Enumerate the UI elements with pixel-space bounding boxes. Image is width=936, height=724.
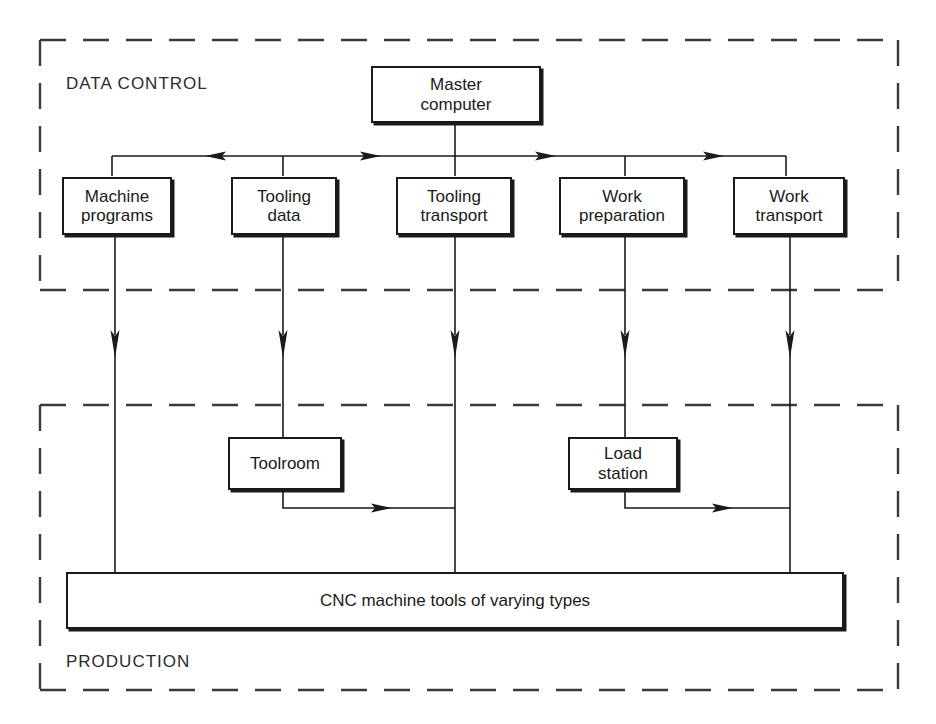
node-work-preparation-line1: Work xyxy=(575,187,669,206)
node-master-computer[interactable]: Master computer xyxy=(371,66,541,123)
node-work-preparation-line2: preparation xyxy=(575,206,669,225)
node-load-station[interactable]: Load station xyxy=(568,437,678,490)
node-toolroom-label: Toolroom xyxy=(246,454,324,473)
zone-label-production: PRODUCTION xyxy=(66,652,190,672)
node-tooling-data[interactable]: Tooling data xyxy=(231,177,337,235)
connector-tooling-data-down xyxy=(279,236,288,438)
node-work-transport[interactable]: Work transport xyxy=(733,177,845,235)
connector-load-station-to-work-transport xyxy=(625,490,790,513)
node-machine-programs-line1: Machine xyxy=(77,187,157,206)
node-toolroom[interactable]: Toolroom xyxy=(228,437,342,490)
node-tooling-transport-line1: Tooling xyxy=(416,187,491,206)
node-master-computer-line2: computer xyxy=(417,95,496,114)
zone-label-data-control: DATA CONTROL xyxy=(66,74,208,94)
connector-toolroom-to-tooling-transport xyxy=(283,490,455,513)
connector-work-preparation-down xyxy=(621,236,630,438)
node-tooling-transport[interactable]: Tooling transport xyxy=(396,177,512,235)
node-machine-programs[interactable]: Machine programs xyxy=(62,177,172,235)
data-bus-line xyxy=(112,156,786,176)
diagram-canvas: DATA CONTROL PRODUCTION Master computer … xyxy=(0,0,936,724)
node-work-transport-line1: Work xyxy=(751,187,826,206)
node-master-computer-line1: Master xyxy=(417,75,496,94)
node-cnc-machine-tools-label: CNC machine tools of varying types xyxy=(320,591,590,611)
node-machine-programs-line2: programs xyxy=(77,206,157,225)
node-tooling-data-line2: data xyxy=(253,206,315,225)
zone-border-production xyxy=(40,405,898,690)
node-load-station-line2: station xyxy=(594,464,652,483)
node-cnc-machine-tools[interactable]: CNC machine tools of varying types xyxy=(66,572,844,629)
node-work-transport-line2: transport xyxy=(751,206,826,225)
node-tooling-transport-line2: transport xyxy=(416,206,491,225)
node-tooling-data-line1: Tooling xyxy=(253,187,315,206)
node-work-preparation[interactable]: Work preparation xyxy=(559,177,685,235)
node-load-station-line1: Load xyxy=(594,444,652,463)
connector-machine-programs-down xyxy=(111,236,120,573)
